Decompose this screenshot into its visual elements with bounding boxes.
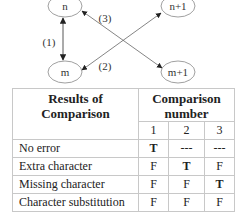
svg-text:m: m [61, 66, 70, 78]
node-m-plus-1: m+1 [161, 61, 195, 83]
table-row: No error T --- --- [13, 140, 235, 158]
header-comparison-number: Comparison number [139, 89, 235, 122]
cell: --- [169, 140, 205, 158]
svg-text:(3): (3) [99, 12, 112, 25]
column-3: 3 [205, 122, 235, 140]
cell: F [139, 176, 169, 194]
node-m: m [48, 61, 82, 83]
node-n-plus-1: n+1 [161, 0, 195, 17]
comparison-diagram: n n+1 m m+1 (1) (2) (3) [0, 0, 238, 86]
svg-text:(2): (2) [99, 60, 112, 73]
svg-text:(1): (1) [43, 36, 56, 49]
cell: F [205, 194, 235, 212]
cell: F [169, 176, 205, 194]
row-label: No error [13, 140, 139, 158]
node-n: n [48, 0, 82, 17]
header-results: Results of Comparison [13, 89, 139, 140]
row-label: Extra character [13, 158, 139, 176]
row-label: Missing character [13, 176, 139, 194]
table-row: Missing character F F T [13, 176, 235, 194]
cell: --- [205, 140, 235, 158]
table-row: Character substitution F F F [13, 194, 235, 212]
edge-1: (1) [43, 18, 63, 60]
cell: F [139, 194, 169, 212]
edge-2: (2) [82, 13, 161, 73]
column-1: 1 [139, 122, 169, 140]
cell: T [205, 176, 235, 194]
results-table: Results of Comparison Comparison number … [12, 88, 235, 212]
table-row: Extra character F T F [13, 158, 235, 176]
svg-text:n+1: n+1 [169, 0, 186, 12]
cell: F [139, 158, 169, 176]
cell: F [169, 194, 205, 212]
svg-text:m+1: m+1 [168, 66, 188, 78]
svg-text:n: n [62, 0, 68, 12]
cell: F [205, 158, 235, 176]
row-label: Character substitution [13, 194, 139, 212]
edge-3: (3) [82, 11, 162, 68]
cell: T [139, 140, 169, 158]
column-2: 2 [169, 122, 205, 140]
cell: T [169, 158, 205, 176]
